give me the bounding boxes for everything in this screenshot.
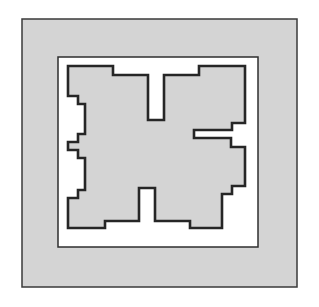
figure-root <box>0 0 319 307</box>
floor-plan-drawing <box>0 0 319 307</box>
